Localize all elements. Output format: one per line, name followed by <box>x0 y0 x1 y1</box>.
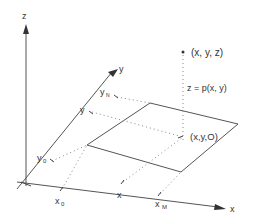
x-axis-label: x <box>230 204 235 214</box>
x-arrow-icon <box>214 204 226 210</box>
tick-marks <box>21 95 183 196</box>
y-axis-label: y <box>119 64 124 74</box>
surface-point-label: (x, y, z) <box>191 47 223 58</box>
x-label: x <box>117 190 122 200</box>
coordinate-diagram: z y x <box>0 0 254 223</box>
x-0-label: x <box>55 196 60 206</box>
y-0-label: y <box>37 153 42 163</box>
z-axis-label: z <box>22 11 27 21</box>
x-0-subscript: 0 <box>61 201 65 207</box>
x-m-subscript: M <box>162 204 167 210</box>
base-point-label: (x,y,O) <box>190 131 218 142</box>
x-axis <box>17 182 226 210</box>
y-n-subscript: N <box>106 92 110 98</box>
y-0-subscript: 0 <box>43 158 47 164</box>
z-axis <box>23 24 29 186</box>
x-m-label: x <box>155 199 160 209</box>
surface-point-marker <box>182 51 185 54</box>
function-label: z = p(x, y) <box>187 83 227 93</box>
y-label: y <box>80 105 85 115</box>
z-arrow-icon <box>23 24 29 34</box>
y-n-label: y <box>100 87 105 97</box>
